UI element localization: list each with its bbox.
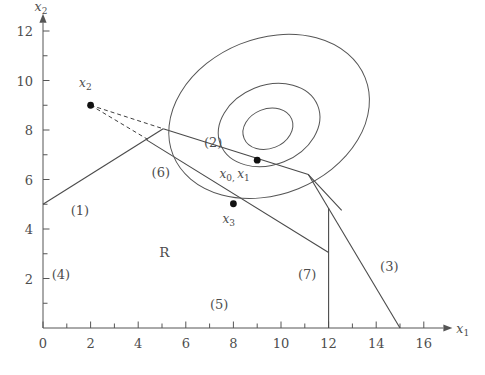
dashed-search-direction	[91, 105, 148, 139]
points-layer: x2x0, x1x3	[79, 76, 260, 228]
constraint-line-3	[308, 175, 400, 328]
constraint-label-5: (5)	[210, 297, 228, 312]
y-axis-tick-label: 12	[16, 24, 33, 39]
y-axis-tick-label: 10	[16, 74, 33, 89]
objective-contours-layer	[144, 5, 394, 227]
constraint-label-6: (6)	[152, 165, 170, 180]
x-axis-tick-label: 4	[134, 336, 142, 351]
data-point	[87, 102, 94, 109]
x-axis-tick-label: 0	[39, 336, 47, 351]
x-axis-tick-label: 10	[273, 336, 290, 351]
feasible-region-label: R	[159, 244, 170, 260]
y-axis-label: x2	[35, 0, 48, 16]
optimization-figure: 024681012141624681012x1x2 x2x0, x1x3 (1)…	[0, 0, 485, 375]
objective-contour-outer	[144, 5, 394, 227]
plot-canvas: 024681012141624681012x1x2 x2x0, x1x3 (1)…	[0, 0, 485, 375]
point-label: x0, x1	[219, 167, 249, 183]
y-axis-tick-label: 4	[25, 222, 33, 237]
y-axis-tick-label: 8	[25, 123, 33, 138]
x-axis-arrow	[443, 324, 452, 331]
x-axis-tick-label: 2	[86, 336, 94, 351]
constraint-label-7: (7)	[298, 267, 316, 282]
data-point	[254, 157, 261, 164]
x-axis-tick-label: 6	[182, 336, 190, 351]
constraint-label-2: (2)	[204, 135, 222, 150]
constraint-label-4: (4)	[52, 267, 70, 282]
constraint-label-1: (1)	[71, 203, 89, 218]
y-axis-tick-label: 6	[25, 173, 33, 188]
dashed-search-direction	[91, 105, 164, 129]
x-axis-tick-label: 14	[368, 336, 385, 351]
constraint-line-1	[43, 129, 163, 204]
objective-contour-inner	[237, 101, 299, 157]
dashed-paths-layer	[91, 105, 164, 139]
y-axis-tick-label: 2	[25, 272, 33, 287]
constraint-label-3: (3)	[380, 259, 398, 274]
data-point	[230, 200, 237, 207]
point-label: x2	[79, 76, 92, 92]
x-axis-tick-label: 8	[229, 336, 237, 351]
point-label: x3	[222, 212, 235, 228]
objective-contour-middle	[206, 69, 333, 182]
x-axis-tick-label: 16	[416, 336, 433, 351]
x-axis-label: x1	[456, 321, 469, 338]
x-axis-tick-label: 12	[320, 336, 337, 351]
